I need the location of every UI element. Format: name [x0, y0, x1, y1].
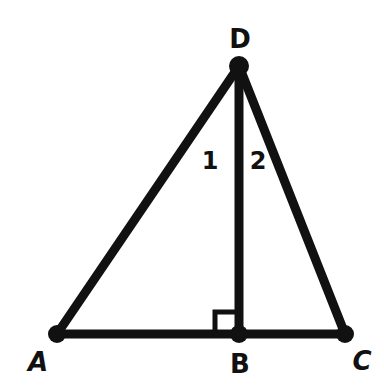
angle-1-label: 1 [202, 147, 219, 175]
segment-ad [57, 66, 239, 334]
triangle-diagram: D A B C 1 2 [0, 0, 384, 387]
label-d: D [229, 24, 251, 54]
angle-2-label: 2 [250, 147, 267, 175]
point-a [48, 325, 66, 343]
segment-dc [239, 66, 345, 334]
point-d [229, 56, 249, 76]
point-c [336, 325, 354, 343]
label-a: A [26, 347, 48, 377]
point-b [230, 325, 248, 343]
label-b: B [230, 349, 250, 379]
label-c: C [352, 346, 371, 376]
